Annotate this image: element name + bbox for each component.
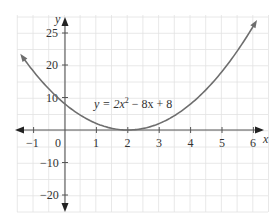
y-tick-label: −10 [40,156,59,170]
y-tick-label: −20 [40,188,59,202]
grid [17,15,269,212]
y-tick-label: 20 [46,58,58,72]
x-tick-label: 3 [156,136,162,150]
x-tick-label: 1 [93,136,99,150]
y-axis-up-arrow-icon [62,17,69,26]
y-axis-down-arrow-icon [62,203,69,212]
equation-lhs: y = 2x [93,97,125,111]
y-ticks: 25 20 10 −10 −20 [40,26,68,202]
x-axis-label: x [262,132,269,146]
x-tick-label: 5 [219,136,225,150]
y-axis-label: y [54,12,61,26]
x-axis-left-arrow-icon [15,127,24,134]
x-tick-label: 4 [188,136,194,150]
y-tick-label: 25 [46,26,58,40]
parabola-chart: x y −1 0 1 2 3 4 5 6 25 20 10 −10 −20 y … [0,0,280,218]
equation-rhs: − 8x + 8 [129,97,173,111]
x-tick-label: 6 [250,136,256,150]
x-tick-label: 0 [55,136,61,150]
x-tick-label: 2 [125,136,131,150]
curve-right-arrow-icon [250,20,257,28]
equation-label: y = 2x2 − 8x + 8 [93,96,172,111]
x-tick-label: −1 [26,136,39,150]
